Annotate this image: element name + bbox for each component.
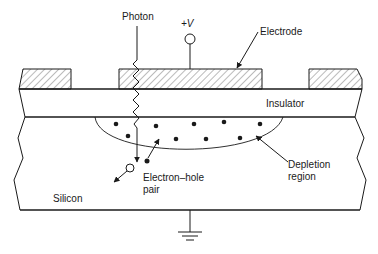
electrode-left xyxy=(19,69,71,89)
diagram-canvas: Photon +V Electrode Insulator Depletion … xyxy=(0,0,378,254)
depletion-label-line1: Depletion xyxy=(288,159,330,170)
electrode-center xyxy=(119,69,262,89)
photon-label: Photon xyxy=(122,11,154,22)
charge-dots xyxy=(114,120,263,142)
depletion-pointer-arrow xyxy=(256,136,288,162)
electrode-right xyxy=(309,69,362,89)
ground-icon xyxy=(178,210,202,240)
electrode-label: Electrode xyxy=(260,26,303,37)
insulator-label: Insulator xyxy=(266,98,305,109)
pair-label-line2: pair xyxy=(143,184,160,195)
insulator-layer xyxy=(19,89,362,117)
voltage-terminal-icon xyxy=(185,34,195,69)
voltage-label: +V xyxy=(181,18,195,29)
silicon-label: Silicon xyxy=(53,193,82,204)
photon-ray xyxy=(133,26,139,162)
pair-label-line1: Electron–hole xyxy=(143,172,205,183)
depletion-region xyxy=(95,117,283,149)
depletion-label-line2: region xyxy=(288,171,316,182)
electrode-pointer-arrow xyxy=(237,32,258,68)
